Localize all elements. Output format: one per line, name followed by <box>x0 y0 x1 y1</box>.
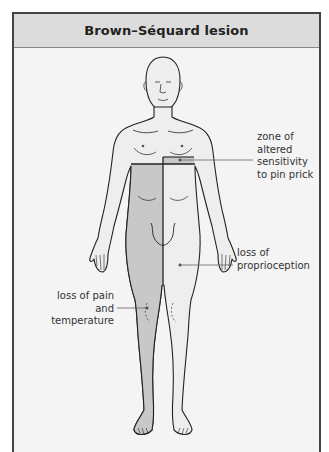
nipple-marker <box>142 145 145 148</box>
label-line: temperature <box>42 315 114 328</box>
label-line: loss of pain <box>42 290 114 303</box>
label-altered-sensitivity: zone of altered sensitivity to pin prick <box>257 131 313 181</box>
label-line: to pin prick <box>257 169 313 182</box>
nipple-marker <box>181 145 184 148</box>
label-line: and <box>42 303 114 316</box>
label-pain-temperature-loss: loss of pain and temperature <box>42 290 114 328</box>
label-line: sensitivity <box>257 156 313 169</box>
label-line: zone of <box>257 131 313 144</box>
label-line: loss of <box>237 247 310 260</box>
label-proprioception-loss: loss of proprioception <box>237 247 310 272</box>
label-line: proprioception <box>237 260 310 273</box>
label-line: altered <box>257 144 313 157</box>
